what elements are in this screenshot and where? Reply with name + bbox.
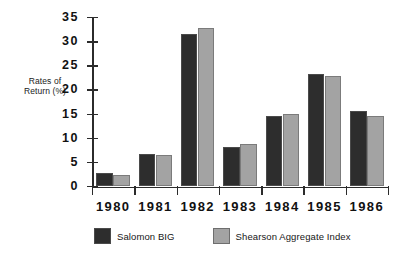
y-axis-tick-label: 5	[70, 155, 79, 169]
bar	[283, 114, 300, 186]
y-axis-tick-label: 25	[62, 58, 79, 72]
x-axis-label: 1980	[92, 199, 134, 214]
bar-group	[96, 17, 130, 186]
bar	[113, 175, 130, 187]
bar	[198, 28, 215, 187]
bar-group	[181, 17, 215, 186]
x-axis-tick	[346, 186, 347, 195]
y-axis-tick-label: 20	[62, 82, 79, 96]
legend-swatch-icon	[213, 228, 230, 244]
legend-label: Shearson Aggregate Index	[236, 231, 351, 242]
plot-area: 0510152025303519801981198219831984198519…	[92, 17, 388, 188]
legend-item-shearson-aggregate-index: Shearson Aggregate Index	[213, 228, 351, 244]
x-axis-tick	[388, 186, 389, 195]
y-axis-tick-label: 35	[62, 10, 79, 24]
bar-group	[223, 17, 257, 186]
bar-group	[350, 17, 384, 186]
bar-group	[266, 17, 300, 186]
x-axis-tick	[219, 186, 220, 195]
x-axis-label: 1985	[303, 199, 345, 214]
x-axis-line	[92, 187, 388, 189]
bar	[181, 34, 198, 187]
legend-item-salomon-big: Salomon BIG	[94, 228, 175, 244]
bar	[223, 147, 240, 187]
chart-legend: Salomon BIG Shearson Aggregate Index	[94, 228, 351, 244]
x-axis-tick	[134, 186, 135, 195]
bar-group	[308, 17, 342, 186]
bar	[308, 74, 325, 186]
bar	[325, 76, 342, 186]
bar	[367, 116, 384, 186]
bar	[96, 173, 113, 186]
y-axis-tick-label: 15	[62, 107, 79, 121]
x-axis-label: 1981	[134, 199, 176, 214]
x-axis-tick	[92, 186, 93, 195]
x-axis-label: 1986	[346, 199, 388, 214]
x-axis-tick	[303, 186, 304, 195]
y-axis-tick-label: 30	[62, 34, 79, 48]
y-axis-tick-label: 0	[70, 179, 79, 193]
bar-chart: Rates of Return (%) 05101520253035198019…	[0, 0, 408, 264]
bar	[350, 111, 367, 187]
legend-swatch-icon	[94, 228, 111, 244]
bar	[240, 144, 257, 186]
x-axis-tick	[177, 186, 178, 195]
bar	[266, 116, 283, 186]
bar-group	[139, 17, 173, 186]
y-axis-tick-label: 10	[62, 131, 79, 145]
bar	[139, 154, 156, 187]
x-axis-tick	[261, 186, 262, 195]
x-axis-label: 1983	[219, 199, 261, 214]
bar	[156, 155, 173, 186]
legend-label: Salomon BIG	[117, 231, 175, 242]
x-axis-label: 1982	[177, 199, 219, 214]
x-axis-label: 1984	[261, 199, 303, 214]
